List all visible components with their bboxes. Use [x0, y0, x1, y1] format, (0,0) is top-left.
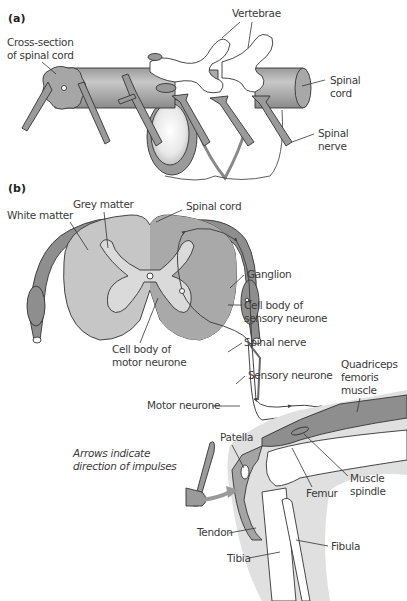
label-motor-cell-body-2: motor neurone — [112, 356, 186, 368]
label-sensory-cell-body-1: Cell body of — [244, 299, 303, 311]
note-arrows-1: Arrows indicate — [72, 447, 150, 459]
label-ganglion: Ganglion — [247, 268, 291, 280]
vertebrae — [148, 34, 273, 92]
label-spinal-cord-a-1: Spinal — [330, 74, 360, 86]
label-muscle-spindle-1: Muscle — [350, 472, 385, 484]
label-spinal-nerve-b: Spinal nerve — [244, 336, 306, 348]
label-spinal-nerve-a-1: Spinal — [318, 127, 348, 139]
label-quadriceps-3: muscle — [341, 384, 377, 396]
vertebral-disc — [147, 99, 283, 180]
label-cross-section-2: of spinal cord — [7, 49, 74, 61]
note-arrows-2: direction of impulses — [73, 460, 177, 472]
label-quadriceps-2: femoris — [341, 371, 378, 383]
label-spinal-nerve-a-2: nerve — [318, 140, 347, 152]
label-motor-neurone: Motor neurone — [147, 399, 220, 411]
label-sensory-neurone: Sensory neurone — [248, 369, 332, 381]
label-white-matter: White matter — [7, 209, 74, 221]
reflex-arc-diagram: (a) — [0, 0, 407, 601]
label-quadriceps-1: Quadriceps — [341, 358, 398, 370]
label-muscle-spindle-2: spindle — [350, 485, 386, 497]
label-sensory-cell-body-2: sensory neurone — [244, 312, 327, 324]
label-tendon: Tendon — [196, 526, 233, 538]
panel-a: (a) — [7, 7, 360, 180]
panel-b: (b) — [7, 182, 407, 601]
label-spinal-cord-b: Spinal cord — [186, 200, 241, 212]
label-spinal-cord-a-2: cord — [330, 87, 352, 99]
label-vertebrae: Vertebrae — [232, 7, 281, 19]
panel-b-tag: (b) — [8, 182, 26, 195]
label-patella: Patella — [220, 431, 253, 443]
label-fibula: Fibula — [331, 540, 360, 552]
label-femur: Femur — [306, 487, 339, 499]
panel-a-tag: (a) — [8, 12, 25, 25]
label-grey-matter: Grey matter — [73, 198, 135, 210]
label-cross-section-1: Cross-section — [7, 36, 74, 48]
label-tibia: Tibia — [226, 552, 251, 564]
label-motor-cell-body-1: Cell body of — [112, 343, 171, 355]
